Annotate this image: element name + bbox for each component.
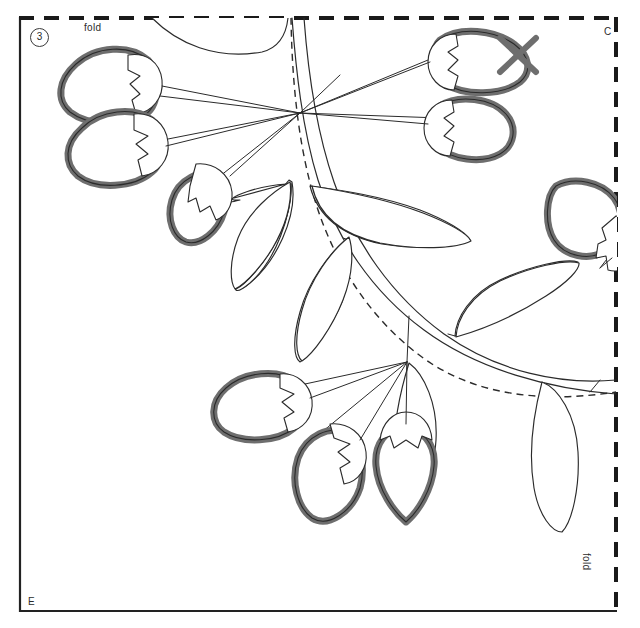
pattern-sheet-page: 3 fold fold C E — [0, 0, 640, 628]
berry-bottom-3 — [376, 412, 434, 522]
berry-cap-2 — [134, 114, 168, 176]
corner-label-c: C — [604, 26, 611, 37]
berry-top-left-2 — [68, 112, 168, 186]
stem-group-upper — [160, 60, 440, 180]
berry-top-right-2 — [424, 99, 513, 160]
pattern-artwork — [0, 0, 640, 628]
leaf-08 — [532, 382, 579, 532]
corner-label-e: E — [28, 596, 35, 607]
leaf-13 — [312, 186, 471, 248]
fold-label-top: fold — [84, 22, 101, 33]
berry-mid-right — [547, 181, 638, 271]
berry-cap-5 — [424, 100, 454, 156]
berry-bottom-2 — [295, 424, 366, 521]
fold-label-right: fold — [581, 553, 592, 570]
berry-top-left-3 — [170, 164, 232, 243]
berry-bottom-1 — [214, 373, 312, 439]
leaf-top-clip — [152, 18, 288, 54]
step-number-badge: 3 — [30, 28, 49, 47]
leaf-12 — [297, 237, 352, 361]
berry-top-right-1 — [428, 31, 536, 92]
berry-cap-4 — [428, 34, 458, 90]
